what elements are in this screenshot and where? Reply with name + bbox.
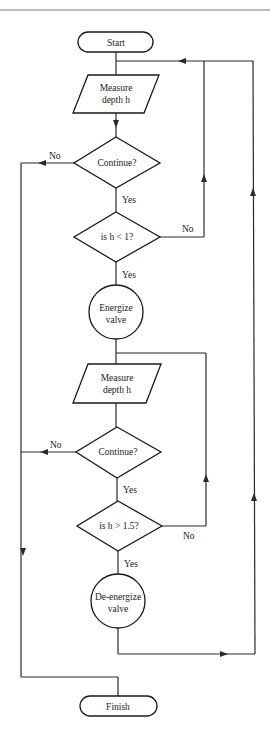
energize-line2: valve xyxy=(106,315,127,325)
energize-line1: Energize xyxy=(99,303,133,313)
deenergize-line1: De-energize xyxy=(95,592,141,602)
deenergize-line2: valve xyxy=(108,604,129,614)
check-high-yes-label: Yes xyxy=(124,559,138,569)
start-label: Start xyxy=(107,38,125,48)
finish-label: Finish xyxy=(106,702,130,712)
arrow-up-icon xyxy=(250,188,256,196)
continue-decision-1: Continue? xyxy=(74,137,160,188)
measure-depth-node-1: Measure depth h xyxy=(73,75,159,113)
flowchart-canvas: Start Measure depth h Continue? No Yes i… xyxy=(0,0,270,741)
arrow-left-icon xyxy=(40,449,48,455)
arrow-up-icon xyxy=(201,174,207,182)
measure2-line2: depth h xyxy=(103,385,131,395)
continue2-yes-label: Yes xyxy=(123,485,137,495)
measure1-line2: depth h xyxy=(102,95,130,105)
arrow-down-icon xyxy=(113,120,119,128)
measure1-line1: Measure xyxy=(100,83,133,93)
arrow-up-icon xyxy=(203,474,209,482)
continue1-label: Continue? xyxy=(97,158,136,168)
deenergize-valve-node: De-energize valve xyxy=(91,574,145,628)
edge-outer-loop xyxy=(253,61,255,654)
check-low-yes-label: Yes xyxy=(122,270,136,280)
check-low-no-label: No xyxy=(182,224,194,234)
check-high-label: is h > 1.5? xyxy=(99,521,139,531)
continue-decision-2: Continue? xyxy=(76,427,161,478)
continue2-no-label: No xyxy=(50,440,62,450)
check-high-decision: is h > 1.5? xyxy=(77,501,162,551)
check-low-decision: is h < 1? xyxy=(74,212,160,262)
measure-depth-node-2: Measure depth h xyxy=(73,364,161,403)
continue2-label: Continue? xyxy=(98,447,137,457)
arrow-right-icon xyxy=(220,651,228,657)
check-low-label: is h < 1? xyxy=(101,232,134,242)
arrow-up-icon xyxy=(251,493,257,501)
arrow-left-icon xyxy=(38,160,46,166)
continue1-no-label: No xyxy=(49,151,61,161)
arrow-left-icon xyxy=(178,58,186,64)
energize-valve-node: Energize valve xyxy=(89,285,143,339)
start-node: Start xyxy=(78,32,153,52)
continue1-yes-label: Yes xyxy=(122,195,136,205)
check-high-no-label: No xyxy=(183,531,195,541)
measure2-line1: Measure xyxy=(101,373,134,383)
finish-node: Finish xyxy=(80,696,157,716)
